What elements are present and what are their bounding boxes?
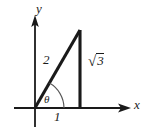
opposite-length-label: √3 xyxy=(88,53,104,69)
radicand-value: 3 xyxy=(96,53,104,67)
trigonometry-triangle-figure: y x 2 θ 1 √3 xyxy=(0,0,147,133)
angle-arc xyxy=(50,83,65,108)
x-axis-label: x xyxy=(134,98,140,111)
y-axis-label: y xyxy=(36,2,42,15)
figure-canvas xyxy=(0,0,147,133)
radical-sign-icon: √ xyxy=(88,54,96,69)
hypotenuse-length-label: 2 xyxy=(43,53,50,66)
triangle-hypotenuse xyxy=(36,30,81,107)
adjacent-length-label: 1 xyxy=(54,110,61,123)
theta-angle-label: θ xyxy=(44,94,49,105)
